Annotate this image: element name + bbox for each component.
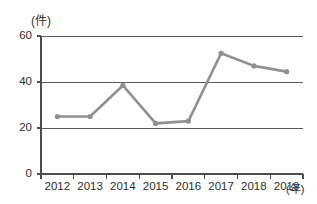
x-tick-label-2019: 2019 <box>270 180 304 192</box>
x-tick-label-2014: 2014 <box>106 180 140 192</box>
data-point-2012 <box>55 114 60 119</box>
x-tick-label-2016: 2016 <box>171 180 205 192</box>
gridlines <box>41 36 303 128</box>
plot-area <box>0 0 317 204</box>
line-chart: (件) (年) 0204060 201220132014201520162017… <box>0 0 317 204</box>
x-tick-label-2012: 2012 <box>40 180 74 192</box>
x-tick-label-2018: 2018 <box>237 180 271 192</box>
data-point-2017 <box>219 51 224 56</box>
x-tick-label-2017: 2017 <box>204 180 238 192</box>
y-tick-label-40: 40 <box>8 75 32 87</box>
data-point-markers <box>55 51 289 126</box>
data-point-2014 <box>120 83 125 88</box>
y-tick-label-20: 20 <box>8 121 32 133</box>
series-line-0 <box>57 53 286 123</box>
data-point-2019 <box>284 69 289 74</box>
data-point-2018 <box>251 63 256 68</box>
data-series-line <box>57 53 286 123</box>
y-tick-label-0: 0 <box>8 167 32 179</box>
data-point-2013 <box>88 114 93 119</box>
x-tick-label-2013: 2013 <box>73 180 107 192</box>
axis-lines <box>41 36 303 174</box>
x-tick-label-2015: 2015 <box>139 180 173 192</box>
axis-ticks <box>37 36 303 179</box>
data-point-2015 <box>153 121 158 126</box>
data-point-2016 <box>186 119 191 124</box>
y-tick-label-60: 60 <box>8 29 32 41</box>
